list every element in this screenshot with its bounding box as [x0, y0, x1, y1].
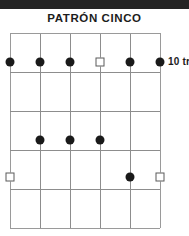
marker-f4-s1: [6, 173, 15, 182]
marker-f1-s4: [96, 58, 105, 67]
fretboard-grid: [10, 33, 160, 228]
marker-f1-s2: [36, 58, 45, 67]
marker-f3-s3: [66, 136, 75, 145]
page-title: PATRÓN CINCO: [0, 12, 189, 24]
marker-f4-s5: [126, 173, 135, 182]
marker-f1-s1: [6, 58, 15, 67]
diagram-root: PATRÓN CINCO 10 tr: [0, 0, 189, 236]
fret-line-1: [10, 33, 160, 34]
marker-f4-s6: [156, 173, 165, 182]
fret-line-2: [10, 72, 160, 73]
marker-f1-s6: [156, 58, 165, 67]
top-scan-band: [0, 0, 189, 9]
marker-f1-s5: [126, 58, 135, 67]
fret-line-6: [10, 228, 160, 229]
fret-line-5: [10, 189, 160, 190]
fret-position-label: 10 tr: [168, 56, 189, 67]
fret-line-3: [10, 111, 160, 112]
marker-f3-s4: [96, 136, 105, 145]
marker-f1-s3: [66, 58, 75, 67]
marker-f3-s2: [36, 136, 45, 145]
fret-line-4: [10, 150, 160, 151]
